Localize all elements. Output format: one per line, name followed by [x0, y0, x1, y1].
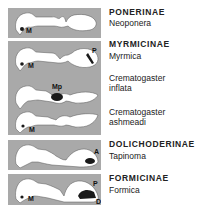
- ant-diagram-crematogaster-inflata: Mp: [15, 83, 98, 109]
- panel-ponerinae: M: [8, 8, 101, 38]
- panel-formicinae: M P D: [8, 174, 101, 205]
- svg-text:Mp: Mp: [52, 83, 62, 91]
- subfamily-label-ponerinae: PONERINAE: [109, 8, 165, 17]
- subfamily-label-formicinae: FORMICINAE: [109, 174, 169, 183]
- svg-text:P: P: [93, 180, 98, 187]
- mandibular-gland-icon: [20, 195, 23, 198]
- genus-label-crematogaster-ashmeadi-line1: Crematogaster: [109, 108, 165, 117]
- svg-text:M: M: [28, 62, 34, 69]
- genus-label-myrmica: Myrmica: [109, 52, 141, 61]
- ant-diagram-crematogaster-ashmeadi: M: [15, 112, 98, 133]
- metapleural-gland-icon: [51, 93, 63, 101]
- ant-diagram-neoponera: M: [8, 8, 101, 38]
- genus-label-crematogaster-ashmeadi-line2: ashmeadi: [109, 118, 146, 127]
- mandibular-gland-icon: [20, 27, 24, 31]
- subfamily-label-dolichoderinae: DOLICHODERINAE: [109, 140, 195, 149]
- svg-text:M: M: [26, 27, 32, 34]
- panel-dolichoderinae: A: [8, 140, 101, 170]
- svg-text:A: A: [94, 148, 99, 155]
- ant-diagram-myrmica: M P: [15, 47, 98, 71]
- panel-myrmicinae: M P Mp M: [8, 41, 101, 135]
- genus-label-crematogaster-inflata-line1: Crematogaster: [109, 74, 165, 83]
- svg-text:D: D: [96, 198, 101, 205]
- ant-diagram-tapinoma: A: [8, 140, 101, 170]
- svg-text:M: M: [29, 126, 35, 133]
- svg-text:P: P: [92, 47, 97, 54]
- anal-gland-icon: [85, 158, 95, 164]
- mandibular-gland-icon: [21, 124, 24, 127]
- genus-label-tapinoma: Tapinoma: [109, 152, 146, 161]
- svg-text:M: M: [28, 195, 34, 202]
- subfamily-label-myrmicinae: MYRMICINAE: [109, 40, 170, 49]
- genus-label-formica: Formica: [109, 186, 140, 195]
- mandibular-gland-icon: [20, 62, 24, 66]
- ant-diagram-formica: M P D: [8, 174, 101, 205]
- genus-label-crematogaster-inflata-line2: inflata: [109, 84, 132, 93]
- genus-label-neoponera: Neoponera: [109, 19, 151, 28]
- ant-diagram-myrmicinae-group: M P Mp M: [8, 41, 101, 135]
